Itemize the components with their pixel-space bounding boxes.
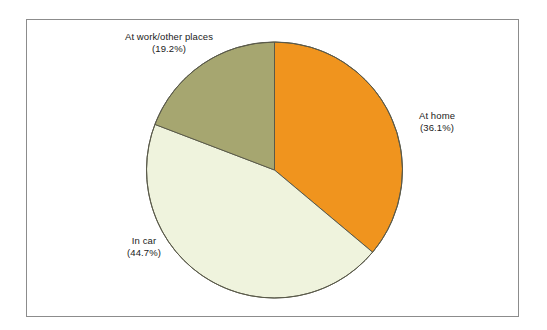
pie-label-in-car-name: In car bbox=[118, 235, 170, 247]
pie-label-at-home-value: (36.1%) bbox=[406, 122, 468, 134]
pie-label-in-car: In car (44.7%) bbox=[118, 235, 170, 260]
pie-label-at-work-other-places-name: At work/other places bbox=[108, 31, 230, 43]
pie-chart-graphic bbox=[0, 0, 547, 330]
pie-label-in-car-value: (44.7%) bbox=[118, 247, 170, 259]
pie-label-at-work-other-places-value: (19.2%) bbox=[108, 43, 230, 55]
pie-label-at-home-name: At home bbox=[406, 110, 468, 122]
pie-label-at-home: At home (36.1%) bbox=[406, 110, 468, 135]
pie-label-at-work-other-places: At work/other places (19.2%) bbox=[108, 31, 230, 56]
pie-chart-figure: At work/other places (19.2%) At home (36… bbox=[0, 0, 547, 330]
